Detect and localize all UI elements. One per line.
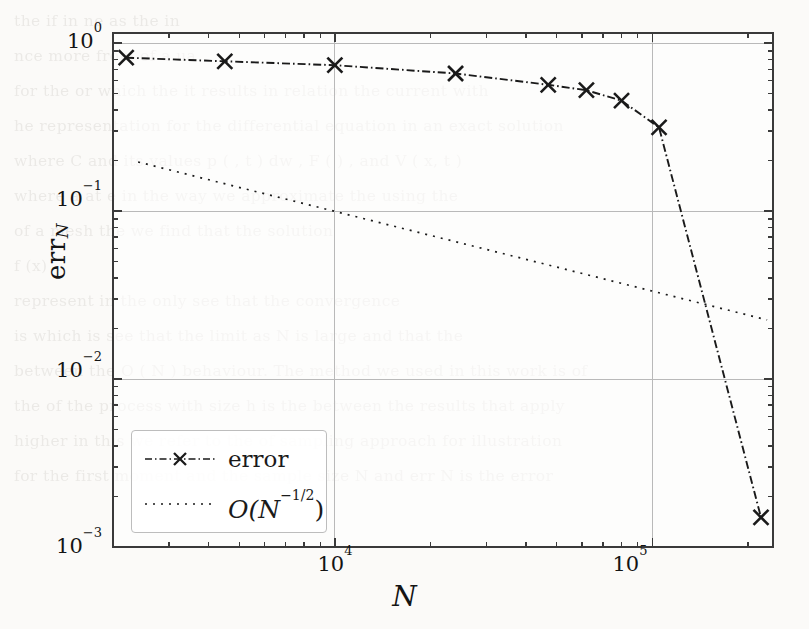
legend-sample-dotted bbox=[143, 483, 217, 525]
legend-label-order: O(N−1/2) bbox=[228, 483, 324, 525]
convergence-chart: 100 10−1 10−2 10−3 104 105 errN N error bbox=[0, 0, 809, 629]
legend-entry-order: O(N−1/2) bbox=[132, 483, 326, 525]
legend-entry-error: error bbox=[132, 438, 326, 480]
y-tick-label: 10−3 bbox=[12, 533, 102, 558]
y-tick-label: 10−2 bbox=[12, 357, 102, 382]
plot-canvas bbox=[0, 0, 809, 629]
x-axis-title: N bbox=[0, 580, 809, 613]
x-tick-label: 105 bbox=[585, 551, 675, 576]
legend-sample-dash-dot-x bbox=[143, 438, 217, 480]
y-axis-title: errN bbox=[41, 192, 72, 312]
legend-label-error: error bbox=[228, 438, 288, 480]
legend: error O(N−1/2) bbox=[131, 430, 327, 533]
y-tick-label: 100 bbox=[12, 28, 102, 53]
x-tick-label: 104 bbox=[290, 551, 380, 576]
